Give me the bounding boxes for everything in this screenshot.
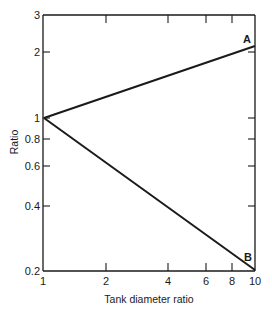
- y-axis-label: Ratio: [8, 130, 20, 155]
- series-a-label: A: [243, 33, 251, 45]
- chart: 3 2 1 0.8 0.6 0.4 0.2 1 2 4 6 8 10 Tank …: [0, 0, 272, 310]
- x-ticks: [106, 15, 232, 271]
- y-tick-label: 2: [34, 46, 40, 58]
- y-tick-label: 3: [34, 9, 40, 21]
- x-tick-label: 8: [229, 275, 235, 287]
- y-tick-label: 0.6: [25, 160, 40, 172]
- x-tick-label: 10: [249, 275, 261, 287]
- series-b-line: [44, 118, 255, 270]
- y-tick-label: 1: [34, 112, 40, 124]
- x-tick-label: 1: [40, 275, 46, 287]
- x-tick-label: 6: [203, 275, 209, 287]
- x-tick-label: 4: [165, 275, 171, 287]
- series-b-label: B: [244, 251, 252, 263]
- y-tick-label: 0.4: [25, 200, 40, 212]
- y-tick-label: 0.2: [25, 265, 40, 277]
- y-tick-labels: 3 2 1 0.8 0.6 0.4 0.2: [25, 9, 40, 277]
- series-a-line: [44, 46, 255, 118]
- x-tick-labels: 1 2 4 6 8 10: [40, 275, 261, 287]
- y-ticks: [43, 52, 255, 206]
- x-axis-label: Tank diameter ratio: [104, 293, 193, 305]
- y-tick-label: 0.8: [25, 133, 40, 145]
- x-tick-label: 2: [103, 275, 109, 287]
- plot-frame: [43, 15, 255, 271]
